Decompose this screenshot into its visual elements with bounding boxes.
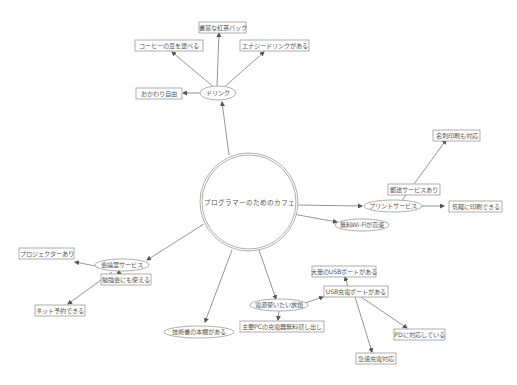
node-refill[interactable]: おかわり自由 bbox=[136, 88, 182, 99]
node-projector[interactable]: プロジェクターあり bbox=[19, 248, 74, 259]
node-usb-port-label: USB充電ポートがある bbox=[326, 288, 387, 296]
node-books[interactable]: 技術書の本棚がある bbox=[164, 326, 234, 338]
node-many-usb[interactable]: 大量のUSBポートがある bbox=[311, 266, 378, 277]
node-fast-charge[interactable]: 急速充電対応 bbox=[356, 353, 396, 364]
node-business-card[interactable]: 名刺印刷も対応 bbox=[433, 130, 480, 141]
node-tea-pack-label: 書富な紅茶パック bbox=[199, 24, 247, 32]
mind-map-canvas: プログラマーのためのカフェ ドリンク 書富な紅茶パック コーヒーの豆を選べる エ… bbox=[0, 0, 517, 385]
node-charger-rental[interactable]: 主要PCの充電器無料貸し出し bbox=[240, 321, 324, 332]
node-coffee-beans[interactable]: コーヒーの豆を選べる bbox=[135, 40, 203, 51]
node-easy-print[interactable]: 気軽に印刷できる bbox=[449, 201, 502, 212]
node-easy-print-label: 気軽に印刷できる bbox=[452, 203, 500, 211]
node-coffee-beans-label: コーヒーの豆を選べる bbox=[139, 42, 199, 50]
node-many-usb-label: 大量のUSBポートがある bbox=[311, 268, 378, 276]
node-online-booking[interactable]: ネット予約できる bbox=[35, 305, 85, 316]
node-meeting-label: 会議室サービス bbox=[101, 261, 143, 269]
node-study-group[interactable]: 勉強会にも使える bbox=[101, 274, 151, 285]
node-drink[interactable]: ドリンク bbox=[200, 86, 236, 100]
node-usb-port[interactable]: USB充電ポートがある bbox=[324, 286, 388, 297]
node-study-group-label: 勉強会にも使える bbox=[102, 276, 150, 284]
node-power[interactable]: 電源使いたい放題 bbox=[250, 299, 308, 311]
node-mail-service-label: 郵送サービスあり bbox=[390, 186, 438, 194]
node-refill-label: おかわり自由 bbox=[141, 90, 177, 98]
node-wifi[interactable]: 無料Wi-Fiが高速 bbox=[335, 219, 389, 231]
node-energy-drink[interactable]: エナジードリンクがある bbox=[240, 40, 309, 51]
node-fast-charge-label: 急速充電対応 bbox=[358, 355, 394, 363]
node-pd[interactable]: PDに対応している bbox=[394, 329, 445, 340]
node-business-card-label: 名刺印刷も対応 bbox=[436, 132, 478, 140]
node-meeting[interactable]: 会議室サービス bbox=[95, 259, 149, 271]
node-drink-label: ドリンク bbox=[206, 89, 230, 96]
node-projector-label: プロジェクターあり bbox=[20, 250, 74, 258]
node-wifi-label: 無料Wi-Fiが高速 bbox=[340, 221, 385, 229]
node-print-label: プリントサービス bbox=[369, 202, 417, 209]
node-mail-service[interactable]: 郵送サービスあり bbox=[388, 184, 440, 195]
node-energy-drink-label: エナジードリンクがある bbox=[242, 42, 308, 50]
node-books-label: 技術書の本棚がある bbox=[172, 328, 226, 336]
node-print[interactable]: プリントサービス bbox=[364, 200, 422, 212]
node-tea-pack[interactable]: 書富な紅茶パック bbox=[199, 22, 247, 33]
center-node-label: プログラマーのためのカフェ bbox=[204, 198, 295, 207]
node-pd-label: PDに対応している bbox=[394, 331, 445, 339]
node-power-label: 電源使いたい放題 bbox=[255, 301, 303, 309]
node-charger-rental-label: 主要PCの充電器無料貸し出し bbox=[242, 323, 322, 331]
center-node[interactable]: プログラマーのためのカフェ bbox=[200, 153, 298, 251]
node-online-booking-label: ネット予約できる bbox=[36, 307, 84, 315]
